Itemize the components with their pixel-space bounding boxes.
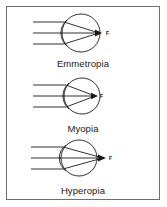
refracted-ray	[66, 96, 95, 107]
diagram-panel-emmetropia: F Emmetropia	[7, 9, 159, 73]
diagram-panels: F Emmetropia	[7, 7, 159, 199]
diagram-panel-hyperopia: F Hyperopia	[7, 135, 159, 199]
focal-point-label: F	[100, 93, 103, 99]
refracted-ray	[63, 158, 103, 169]
focal-point-label: F	[109, 155, 112, 161]
diagram-panel-myopia: F Myopia	[7, 73, 159, 137]
refracted-ray	[63, 147, 103, 158]
eye-refraction-figure: F Emmetropia	[0, 0, 167, 207]
focal-point-arrowhead	[98, 155, 106, 162]
panel-label-hyperopia: Hyperopia	[7, 185, 159, 196]
panel-label-myopia: Myopia	[7, 123, 159, 134]
focal-point-arrowhead	[91, 93, 98, 99]
refracted-ray	[64, 33, 99, 44]
focal-point-arrowhead	[95, 30, 102, 37]
refracted-ray	[66, 85, 95, 96]
focal-point-label: F	[106, 30, 109, 36]
refracted-ray	[64, 22, 99, 33]
panel-label-emmetropia: Emmetropia	[7, 58, 159, 69]
